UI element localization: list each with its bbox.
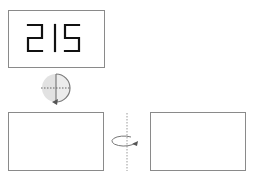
rotate-around-vertical-axis-icon (0, 0, 263, 192)
